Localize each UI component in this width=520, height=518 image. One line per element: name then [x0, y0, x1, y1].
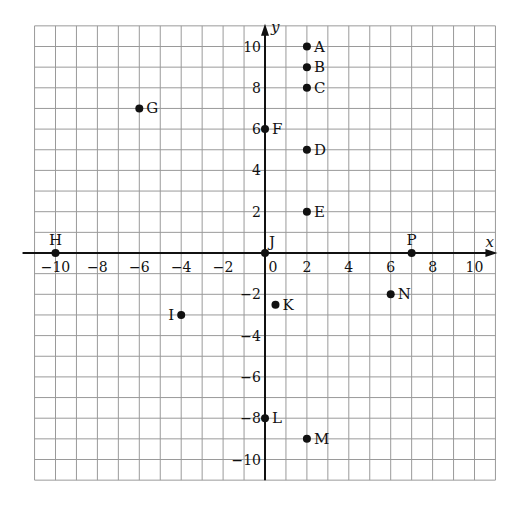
x-tick-label: 8 — [428, 259, 437, 275]
point-k — [271, 301, 279, 309]
x-tick-label: −8 — [87, 259, 108, 275]
point-h — [52, 249, 60, 257]
point-label-l: L — [272, 409, 282, 427]
y-tick-label: 4 — [252, 162, 261, 178]
point-c — [303, 84, 311, 92]
point-a — [303, 43, 311, 51]
point-label-m: M — [314, 430, 329, 448]
point-label-g: G — [146, 99, 158, 117]
point-j — [261, 249, 269, 257]
point-g — [135, 104, 143, 112]
y-tick-label: −10 — [231, 452, 261, 468]
point-label-e: E — [314, 203, 325, 221]
point-i — [177, 311, 185, 319]
x-tick-label: 2 — [302, 259, 311, 275]
coordinate-plane: xy −10−8−6−4−20246810108642−2−4−6−8−10 A… — [0, 0, 520, 518]
point-n — [387, 290, 395, 298]
y-tick-label: −8 — [240, 410, 261, 426]
point-l — [261, 414, 269, 422]
y-axis-label: y — [270, 18, 280, 36]
points: ABCDEFGHIJKLMNP — [49, 38, 417, 448]
y-tick-label: 2 — [252, 204, 261, 220]
point-label-h: H — [49, 231, 62, 249]
point-label-f: F — [272, 120, 282, 138]
point-label-i: I — [168, 306, 174, 324]
x-tick-label: 10 — [466, 259, 484, 275]
point-d — [303, 146, 311, 154]
point-e — [303, 208, 311, 216]
x-tick-label: −10 — [41, 259, 71, 275]
point-m — [303, 435, 311, 443]
x-tick-label: −2 — [213, 259, 234, 275]
x-tick-label: 4 — [344, 259, 353, 275]
x-tick-label: 0 — [269, 259, 278, 275]
point-label-c: C — [314, 79, 325, 97]
point-label-j: J — [267, 233, 275, 251]
x-tick-label: 6 — [386, 259, 395, 275]
y-tick-label: −4 — [240, 328, 261, 344]
point-label-n: N — [398, 285, 411, 303]
point-label-p: P — [407, 231, 417, 249]
point-b — [303, 63, 311, 71]
y-tick-label: 6 — [252, 121, 261, 137]
point-label-d: D — [314, 141, 326, 159]
y-tick-label: 8 — [252, 80, 261, 96]
x-tick-label: −4 — [171, 259, 192, 275]
y-tick-label: −2 — [240, 286, 261, 302]
x-tick-label: −6 — [129, 259, 150, 275]
point-label-k: K — [282, 296, 294, 314]
y-tick-label: −6 — [240, 369, 261, 385]
point-label-b: B — [314, 58, 325, 76]
point-f — [261, 125, 269, 133]
point-p — [408, 249, 416, 257]
point-label-a: A — [313, 38, 325, 56]
x-axis-label: x — [485, 233, 494, 251]
y-tick-label: 10 — [243, 39, 261, 55]
